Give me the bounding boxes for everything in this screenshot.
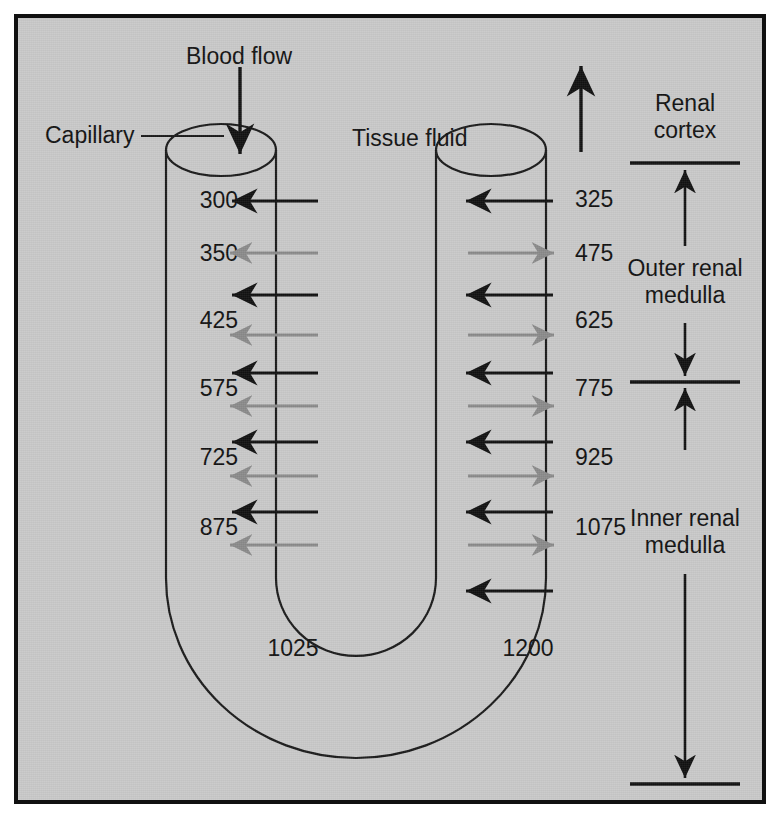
vasa-recta-diagram: Blood flow Capillary Tissue fluid 300 35… (18, 18, 762, 800)
descending-value-2: 425 (200, 307, 238, 333)
outer-medulla-label-line2: medulla (645, 282, 726, 308)
ascending-value-2: 625 (575, 307, 613, 333)
ascending-exchange-arrows (466, 201, 554, 591)
figure-frame: Blood flow Capillary Tissue fluid 300 35… (14, 14, 766, 804)
descending-limb-opening (166, 124, 276, 176)
descending-exchange-arrows (230, 201, 318, 545)
capillary-label: Capillary (45, 122, 135, 148)
renal-cortex-label-line2: cortex (654, 117, 717, 143)
capillary-inner-wall (276, 150, 436, 656)
inner-medulla-label-line1: Inner renal (630, 505, 740, 531)
ascending-value-5: 1075 (575, 514, 626, 540)
ascending-value-3: 775 (575, 375, 613, 401)
figure-root: Blood flow Capillary Tissue fluid 300 35… (0, 0, 784, 820)
descending-bottom-value: 1025 (267, 635, 318, 661)
ascending-value-0: 325 (575, 186, 613, 212)
ascending-bottom-value: 1200 (502, 635, 553, 661)
renal-cortex-label-line1: Renal (655, 90, 715, 116)
outer-medulla-label-line1: Outer renal (627, 255, 742, 281)
inner-medulla-label-line2: medulla (645, 532, 726, 558)
descending-value-5: 875 (200, 514, 238, 540)
blood-flow-label: Blood flow (186, 43, 293, 69)
descending-value-4: 725 (200, 444, 238, 470)
descending-limb-values: 300 350 425 575 725 875 1025 (200, 187, 319, 661)
descending-value-3: 575 (200, 375, 238, 401)
kidney-zone-scale: Renal cortex Outer renal medulla Inner r… (627, 90, 742, 784)
ascending-value-4: 925 (575, 444, 613, 470)
tissue-fluid-label: Tissue fluid (352, 125, 467, 151)
ascending-value-1: 475 (575, 240, 613, 266)
